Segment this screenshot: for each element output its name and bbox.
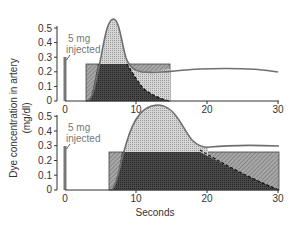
dye-dilution-chart: Dye concentration in artery (mg/dl) 5 mg… — [0, 0, 300, 229]
svg-text:0.5: 0.5 — [38, 111, 52, 122]
svg-text:0.4: 0.4 — [38, 37, 52, 48]
svg-text:0.1: 0.1 — [38, 81, 52, 92]
top-annotation-arrow — [67, 55, 71, 60]
bottom-panel: 5 mg injected 0 0.1 0.2 0.3 0.4 0.5 0 — [38, 105, 284, 218]
top-injection-bar — [64, 57, 67, 101]
y-axis-title-line1: Dye concentration in artery — [8, 58, 19, 178]
top-annotation-line1: 5 mg — [68, 33, 90, 44]
svg-text:0.4: 0.4 — [38, 126, 52, 137]
svg-text:30: 30 — [272, 104, 284, 115]
bottom-annotation-line1: 5 mg — [68, 122, 90, 133]
bottom-annotation-line2: injected — [66, 133, 100, 144]
svg-text:0: 0 — [62, 104, 68, 115]
top-annotation-line2: injected — [66, 44, 100, 55]
top-panel: 5 mg injected 0 0.1 0.2 0.3 0.4 0.5 — [38, 19, 284, 115]
svg-text:0: 0 — [46, 95, 52, 106]
svg-text:20: 20 — [201, 104, 213, 115]
svg-text:0.5: 0.5 — [38, 23, 52, 34]
svg-text:0.3: 0.3 — [38, 140, 52, 151]
svg-text:20: 20 — [201, 193, 213, 204]
svg-text:0.1: 0.1 — [38, 170, 52, 181]
svg-text:30: 30 — [272, 193, 284, 204]
svg-text:10: 10 — [130, 193, 142, 204]
svg-text:0.3: 0.3 — [38, 52, 52, 63]
top-y-tick-labels: 0 0.1 0.2 0.3 0.4 0.5 — [38, 23, 52, 107]
y-axis-title: Dye concentration in artery (mg/dl) — [8, 58, 32, 178]
x-axis-title: Seconds — [136, 207, 175, 218]
y-axis-title-line2: (mg/dl) — [21, 102, 32, 133]
bottom-y-tick-labels: 0 0.1 0.2 0.3 0.4 0.5 — [38, 111, 52, 195]
bottom-injection-bar — [64, 146, 67, 190]
bottom-x-tick-labels: 0 10 20 30 — [62, 193, 284, 204]
svg-text:0: 0 — [46, 184, 52, 195]
svg-text:0.2: 0.2 — [38, 155, 52, 166]
svg-text:0.2: 0.2 — [38, 66, 52, 77]
bottom-annotation-arrow — [67, 144, 71, 149]
svg-text:0: 0 — [62, 193, 68, 204]
